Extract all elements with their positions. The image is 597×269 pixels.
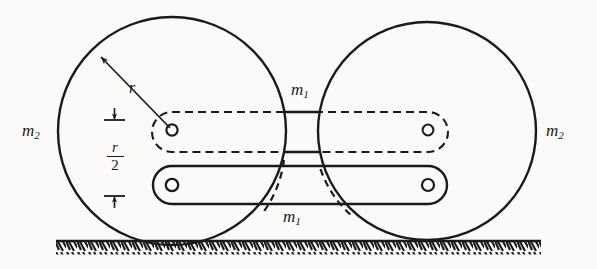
ground: [56, 241, 541, 255]
label-radius: r: [129, 79, 135, 97]
ground-hatching: [56, 242, 541, 255]
radius-arrow-icon: [101, 57, 170, 128]
label-radius-symbol: r: [129, 79, 135, 96]
label-m2-left-subscript: 2: [34, 129, 40, 141]
label-m1-upper: m1: [291, 80, 309, 100]
label-offset-fraction: r 2: [106, 140, 124, 174]
radius-arrow-line: [101, 57, 170, 128]
diagram-canvas: [0, 0, 597, 269]
bar-lower-solid: [153, 166, 447, 204]
hub-left-lower-icon: [166, 179, 178, 191]
label-m2-right-subscript: 2: [558, 129, 564, 141]
hub-right-lower-icon: [422, 179, 434, 191]
bar-upper-outline: [152, 112, 448, 152]
label-m1-lower-symbol: m: [283, 207, 295, 226]
bar-segment-between-wheels: [284, 112, 320, 152]
label-m2-right: m2: [546, 121, 564, 141]
bar-lower-outline: [153, 166, 447, 204]
label-m1-lower: m1: [283, 207, 301, 227]
offset-numerator: r: [106, 140, 124, 155]
label-m1-lower-subscript: 1: [295, 215, 301, 227]
hub-right-upper-icon: [423, 125, 434, 136]
label-m2-left-symbol: m: [22, 121, 34, 140]
offset-denominator: 2: [106, 158, 124, 173]
label-m1-upper-symbol: m: [291, 80, 303, 99]
physics-diagram: m2 m2 m1 m1 r r 2: [0, 0, 597, 269]
label-m2-left: m2: [22, 121, 40, 141]
bar-upper-dashed: [152, 112, 448, 152]
label-m1-upper-subscript: 1: [303, 88, 309, 100]
label-m2-right-symbol: m: [546, 121, 558, 140]
